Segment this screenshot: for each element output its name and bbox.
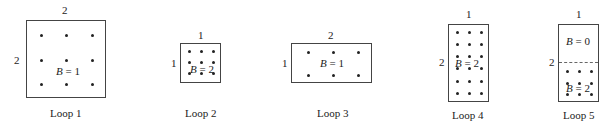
- field-dot: [480, 80, 483, 83]
- field-dot: [65, 34, 68, 37]
- loop-5-bottom-field-label: B = 2: [566, 83, 590, 94]
- field-dot: [307, 74, 310, 77]
- field-dot: [200, 50, 203, 53]
- loop-2-height-label: 1: [171, 58, 177, 69]
- field-dot: [590, 70, 593, 73]
- field-dot: [468, 80, 471, 83]
- field-dot: [480, 67, 483, 70]
- loop-2-box: B = 2: [180, 43, 221, 83]
- loop-5-height-label: 2: [549, 57, 555, 68]
- field-dot: [456, 80, 459, 83]
- field-dot: [480, 92, 483, 95]
- field-boundary-dashed-line: [559, 62, 598, 63]
- loop-5-top-field-label: B = 0: [566, 36, 590, 47]
- loop-1-caption: Loop 1: [50, 108, 81, 119]
- field-dot: [332, 74, 335, 77]
- loop-2-caption: Loop 2: [185, 108, 216, 119]
- loop-3-caption: Loop 3: [317, 108, 348, 119]
- loop-1-width-label: 2: [62, 5, 68, 16]
- loop-4-height-label: 2: [439, 57, 445, 68]
- loop-5-caption: Loop 5: [563, 110, 594, 121]
- loop-1-height-label: 2: [14, 55, 20, 66]
- field-dot: [65, 83, 68, 86]
- field-dot: [578, 70, 581, 73]
- loop-1-field-label: B = 1: [56, 66, 80, 77]
- field-dot: [468, 92, 471, 95]
- field-dot: [566, 70, 569, 73]
- field-dot: [91, 83, 94, 86]
- loop-3-box: B = 1: [291, 43, 372, 83]
- loop-1-box: B = 1: [26, 20, 106, 98]
- loop-3-height-label: 1: [282, 58, 288, 69]
- loop-2-width-label: 1: [198, 30, 204, 41]
- loop-4-field-label: B = 2: [455, 58, 479, 69]
- field-dot: [212, 50, 215, 53]
- field-dot: [40, 34, 43, 37]
- field-dot: [307, 51, 310, 54]
- field-dot: [40, 83, 43, 86]
- field-dot: [456, 92, 459, 95]
- field-dot: [590, 82, 593, 85]
- loop-3-field-label: B = 1: [320, 58, 344, 69]
- field-dot: [480, 55, 483, 58]
- loop-3-width-label: 2: [328, 30, 334, 41]
- field-dot: [456, 43, 459, 46]
- field-dot: [357, 74, 360, 77]
- field-dot: [357, 51, 360, 54]
- field-dot: [40, 59, 43, 62]
- field-dot: [91, 59, 94, 62]
- loop-5-width-label: 1: [576, 9, 582, 20]
- field-dot: [468, 43, 471, 46]
- loop-2-field-label: B = 2: [190, 64, 214, 75]
- field-dot: [332, 51, 335, 54]
- loop-4-box: B = 2: [448, 24, 489, 102]
- field-dot: [480, 43, 483, 46]
- field-dot: [480, 31, 483, 34]
- field-dot: [456, 31, 459, 34]
- field-dot: [188, 50, 191, 53]
- field-dot: [468, 31, 471, 34]
- field-dot: [91, 34, 94, 37]
- field-dot: [590, 93, 593, 96]
- loop-4-caption: Loop 4: [452, 110, 483, 121]
- field-dot: [65, 59, 68, 62]
- loop-5-box: B = 0 B = 2: [558, 24, 599, 102]
- loop-4-width-label: 1: [466, 9, 472, 20]
